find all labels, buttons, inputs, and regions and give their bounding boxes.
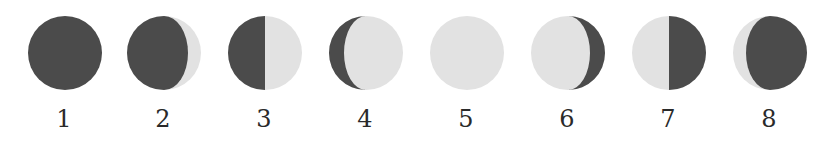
- phase-label: 7: [618, 105, 718, 133]
- phase-label: 2: [113, 105, 213, 133]
- moon-phase-3-icon: [227, 15, 303, 91]
- moon-phase-5-icon: [429, 15, 505, 91]
- phase-1: 1: [14, 0, 114, 143]
- moon-phases-diagram: 1 2 3 4 5 6: [0, 0, 833, 143]
- phase-label: 1: [14, 105, 114, 133]
- phase-5: 5: [416, 0, 516, 143]
- phase-label: 5: [416, 105, 516, 133]
- phase-7: 7: [618, 0, 718, 143]
- moon-phase-2-icon: [126, 15, 202, 91]
- phase-4: 4: [315, 0, 415, 143]
- phase-label: 8: [719, 105, 819, 133]
- phase-3: 3: [214, 0, 314, 143]
- moon-phase-6-icon: [530, 15, 606, 91]
- phase-2: 2: [113, 0, 213, 143]
- phase-label: 4: [315, 105, 415, 133]
- moon-phase-7-icon: [631, 15, 707, 91]
- phase-8: 8: [719, 0, 819, 143]
- moon-phase-1-icon: [27, 15, 103, 91]
- phase-label: 3: [214, 105, 314, 133]
- moon-phase-4-icon: [328, 15, 404, 91]
- phase-label: 6: [517, 105, 617, 133]
- moon-phase-8-icon: [732, 15, 808, 91]
- phase-6: 6: [517, 0, 617, 143]
